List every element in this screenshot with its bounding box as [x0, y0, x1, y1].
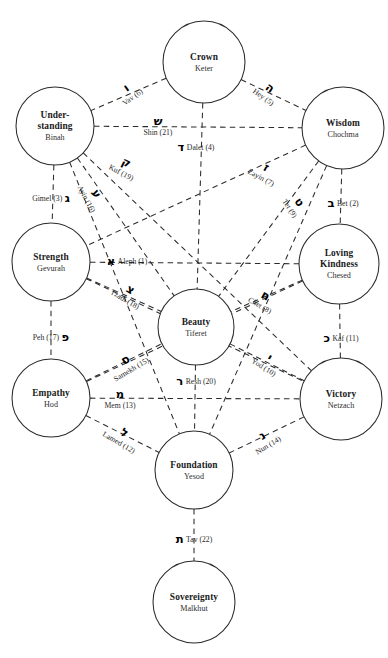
- hebrew-letter-peh-icon: פ: [62, 332, 70, 344]
- sephira-label-gevurah[interactable]: StrengthGevurah: [33, 252, 69, 273]
- sephira-hebrew-binah: Binah: [37, 133, 72, 142]
- sephira-name-chesed: LovingKindness: [320, 248, 358, 270]
- path-label-dalet[interactable]: דDalet (4): [178, 142, 215, 154]
- path-label-gimel[interactable]: גGimel (3): [32, 193, 70, 205]
- path-caption-resh: Resh (20): [186, 378, 216, 387]
- hebrew-letter-aleph-icon: א: [107, 256, 115, 268]
- sephira-name-malkhut: Sovereignty: [170, 592, 218, 603]
- hebrew-letter-mem-icon: מ: [116, 389, 124, 401]
- sephira-hebrew-chesed: Chesed: [320, 271, 358, 280]
- sephira-name-chochma: Wisdom: [326, 118, 360, 129]
- path-label-aleph[interactable]: אAleph (1): [107, 256, 148, 268]
- sephira-label-binah[interactable]: Under-standingBinah: [37, 110, 72, 142]
- path-dalet: [197, 103, 203, 289]
- sephira-hebrew-tiferet: Tiferet: [182, 328, 211, 337]
- path-label-bet[interactable]: בBet (2): [327, 198, 358, 210]
- sephira-label-tiferet[interactable]: BeautyTiferet: [182, 317, 211, 338]
- hebrew-letter-kaf-icon: כ: [324, 333, 331, 345]
- path-caption-tav: Tav (22): [186, 536, 212, 545]
- sephira-name-yesod: Foundation: [170, 460, 217, 471]
- path-label-mem[interactable]: מMem (13): [105, 389, 136, 410]
- sephira-name-line1-binah: Under-: [37, 110, 72, 121]
- path-caption-bet: Bet (2): [337, 200, 359, 209]
- sephira-label-netzach[interactable]: VictoryNetzach: [326, 389, 357, 410]
- path-kaf: [340, 304, 341, 358]
- hebrew-letter-shin-icon: ש: [154, 116, 163, 128]
- tree-of-life-diagram: CrownKeterUnder-standingBinahWisdomChoch…: [0, 0, 388, 658]
- hebrew-letter-gimel-icon: ג: [65, 193, 70, 205]
- sephira-name-gevurah: Strength: [33, 252, 69, 263]
- path-bet: [340, 169, 342, 224]
- sephira-name-tiferet: Beauty: [182, 317, 211, 328]
- sephira-hebrew-chochma: Chochma: [326, 129, 360, 138]
- sephira-hebrew-keter: Keter: [190, 63, 218, 72]
- path-caption-kaf: Kaf (11): [333, 335, 359, 344]
- path-caption-mem: Mem (13): [105, 400, 136, 409]
- path-label-peh[interactable]: פPeh (17): [33, 332, 69, 344]
- sephira-hebrew-yesod: Yesod: [170, 471, 217, 480]
- sephira-hebrew-hod: Hod: [32, 399, 70, 408]
- sephira-name-line1-chesed: Loving: [320, 248, 358, 259]
- sephira-name-keter: Crown: [190, 52, 218, 63]
- sephira-label-chesed[interactable]: LovingKindnessChesed: [320, 248, 358, 280]
- path-label-kaf[interactable]: כKaf (11): [324, 333, 359, 345]
- path-caption-aleph: Aleph (1): [118, 258, 148, 267]
- path-caption-peh: Peh (17): [33, 334, 59, 343]
- sephira-name-hod: Empathy: [32, 388, 70, 399]
- path-caption-dalet: Dalet (4): [187, 144, 215, 153]
- path-label-shin[interactable]: שShin (21): [144, 116, 173, 137]
- path-shin: [94, 126, 302, 127]
- sephira-name-line2-binah: standing: [37, 121, 72, 132]
- sephira-label-hod[interactable]: EmpathyHod: [32, 388, 70, 409]
- sephira-label-chochma[interactable]: WisdomChochma: [326, 118, 360, 139]
- sephira-name-line2-chesed: Kindness: [320, 259, 358, 270]
- sephira-label-keter[interactable]: CrownKeter: [190, 52, 218, 73]
- hebrew-letter-resh-icon: ר: [176, 376, 183, 388]
- path-caption-gimel: Gimel (3): [32, 195, 62, 204]
- sephira-label-malkhut[interactable]: SovereigntyMalkhut: [170, 592, 218, 613]
- sephira-label-yesod[interactable]: FoundationYesod: [170, 460, 217, 481]
- hebrew-letter-bet-icon: ב: [327, 198, 334, 210]
- path-caption-shin: Shin (21): [144, 127, 173, 136]
- sephira-name-netzach: Victory: [326, 389, 357, 400]
- hebrew-letter-tav-icon: ת: [176, 534, 184, 546]
- path-resh: [195, 365, 196, 431]
- sephira-name-binah: Under-standing: [37, 110, 72, 132]
- path-label-resh[interactable]: רResh (20): [176, 376, 216, 388]
- sephira-hebrew-netzach: Netzach: [326, 400, 357, 409]
- sephira-hebrew-gevurah: Gevurah: [33, 263, 69, 272]
- hebrew-letter-dalet-icon: ד: [178, 142, 185, 154]
- sephira-hebrew-malkhut: Malkhut: [170, 603, 218, 612]
- path-label-tav[interactable]: תTav (22): [176, 534, 213, 546]
